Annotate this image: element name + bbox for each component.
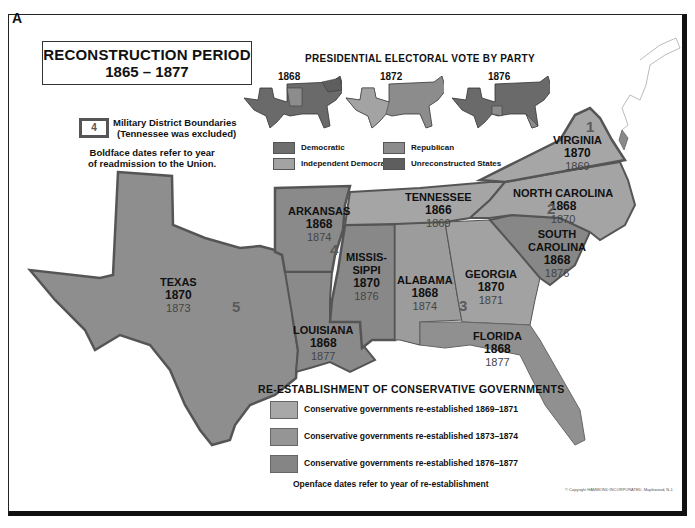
state-label-florida: FLORIDA18681877 [473,330,522,369]
reestablishment-title: RE-ESTABLISHMENT OF CONSERVATIVE GOVERNM… [258,383,564,395]
legend-unreconstructed: Unreconstructed States [383,158,501,170]
openface-note: Openface dates refer to year of re-estab… [293,479,489,489]
state-label-texas: TEXAS18701873 [160,276,197,315]
state-label-virginia: VIRGINIA18701869 [553,134,602,173]
presidential-vote-title: PRESIDENTIAL ELECTORAL VOTE BY PARTY [305,53,535,64]
unreconstructed-swatch [383,158,405,170]
copyright-text: © Copyright HAMMOND INCORPORATED, Maplew… [565,487,673,492]
state-label-south-carolina: SOUTHCAROLINA18681876 [528,228,586,280]
swatch-1876-1877 [270,455,298,473]
state-label-arkansas: ARKANSAS18681874 [288,205,350,244]
state-label-alabama: ALABAMA18681874 [397,274,453,313]
district-number-3: 3 [459,297,467,314]
swatch-1869-1871 [270,401,298,419]
swatch-1873-1874 [270,428,298,446]
district-number-4: 4 [330,241,338,258]
district-number-5: 5 [232,298,240,315]
district-number-2: 2 [547,200,555,217]
state-label-georgia: GEORGIA18701871 [465,268,517,307]
northeast-outline [622,38,680,130]
reestablishment-item-1876-1877: Conservative governments re-established … [270,455,518,473]
state-label-tennessee: TENNESSEE18661869 [405,191,472,230]
state-label-louisiana: LOUISIANA18681877 [293,324,354,363]
state-label-north-carolina: NORTH CAROLINA18681870 [513,187,613,226]
republican-swatch [383,142,405,154]
legend-democratic: Democratic [273,142,345,154]
state-label-mississippi: MISSIS-SIPPI18701876 [346,251,387,303]
legend-republican: Republican [383,142,454,154]
legend-independent-democratic: Independent Democratic [273,158,394,170]
minimap-1876 [450,76,550,131]
reestablishment-item-1869-1871: Conservative governments re-established … [270,401,518,419]
district-number-1: 1 [586,118,594,135]
independent-democratic-swatch [273,158,295,170]
reestablishment-item-1873-1874: Conservative governments re-established … [270,428,518,446]
minimap-1872 [344,76,444,131]
democratic-swatch [273,142,295,154]
minimap-1868 [242,76,342,131]
delmarva [619,130,628,150]
